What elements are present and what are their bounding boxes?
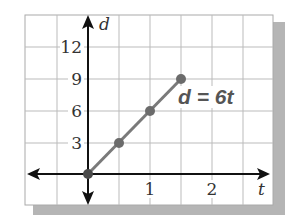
data-point (145, 106, 155, 116)
y-axis-label: d (99, 14, 110, 34)
chart-svg: 12 9 6 3 1 2 t d d = 6t (0, 0, 298, 220)
x-axis-label: t (258, 179, 265, 199)
y-tick-6: 6 (71, 101, 82, 121)
equation-label: d = 6t (178, 85, 234, 108)
x-tick-2: 2 (207, 179, 218, 199)
y-tick-3: 3 (71, 133, 82, 153)
data-point (176, 74, 186, 84)
data-point (114, 138, 124, 148)
chart-figure: 12 9 6 3 1 2 t d d = 6t (0, 0, 298, 220)
x-tick-1: 1 (145, 179, 156, 199)
y-tick-9: 9 (71, 69, 82, 89)
y-tick-12: 12 (60, 37, 82, 57)
data-point (83, 169, 93, 179)
